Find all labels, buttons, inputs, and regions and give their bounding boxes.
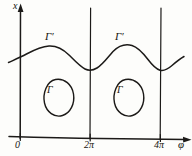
vertical-rule-2pi [90,8,91,139]
figure-canvas: x φ 0 2π 4π Γ′ Γ′ Γ Γ [0,0,192,156]
x-axis-label: φ [178,139,184,150]
x-tick-label-2pi: 2π [84,140,94,150]
vertical-rule-4pi [160,8,161,139]
oval-label-gamma-left: Γ [47,85,53,95]
curve-label-gamma-prime-second: Γ′ [115,31,124,42]
curve-label-gamma-prime-first: Γ′ [45,31,54,42]
x-tick-label-0: 0 [15,140,20,150]
oval-label-gamma-right: Γ [117,85,123,95]
periodic-curve-gamma-prime [9,45,185,71]
y-axis-arrowhead [18,4,24,13]
x-axis-arrowhead [183,137,192,143]
y-axis-label: x [13,1,17,11]
x-tick-label-4pi: 4π [154,140,164,150]
figure-drawing [0,0,192,156]
